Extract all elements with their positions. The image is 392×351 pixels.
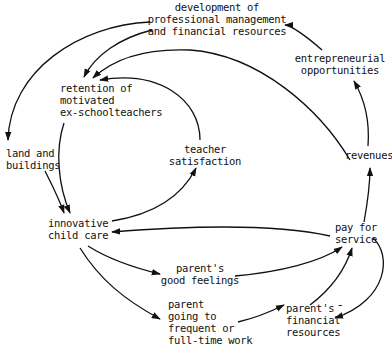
edge-revenues-to-entrepreneurial: [354, 81, 368, 146]
node-development: development of professional management a…: [127, 1, 307, 37]
edge-innovative-to-teacher: [112, 168, 196, 221]
edge-development-to-land: [8, 22, 150, 140]
node-entrepreneurial: entrepreneurial opportunities: [290, 52, 390, 76]
edge-innovative-to-goodfeelings: [88, 246, 160, 274]
edge-financial-to-pay: [310, 248, 352, 305]
edge-innovative-to-parentwork: [80, 248, 160, 319]
edge-goodfeelings-to-pay: [235, 247, 342, 276]
edge-pay-to-revenues: [364, 168, 370, 222]
node-innovative: innovative child care: [48, 217, 108, 241]
node-pay: pay for service: [328, 221, 384, 245]
node-parent-work: parent going to frequent or full-time wo…: [168, 298, 252, 346]
node-teacher-satisfaction: teacher satisfaction: [165, 143, 245, 167]
causal-loop-diagram: development of professional management a…: [0, 0, 392, 351]
edge-land-to-innovative: [45, 171, 64, 213]
edge-retention-to-innovative: [59, 123, 70, 213]
node-retention: retention of motivated ex-schoolteachers: [60, 82, 162, 118]
edge-pay-to-innovative: [112, 227, 330, 236]
node-revenues: revenues: [345, 149, 392, 161]
node-financial: parent's financial resources: [286, 302, 340, 338]
node-good-feelings: parent's good feelings: [160, 262, 240, 286]
node-land: land and buildings: [6, 147, 60, 171]
negative-polarity-sign: -: [338, 298, 342, 312]
